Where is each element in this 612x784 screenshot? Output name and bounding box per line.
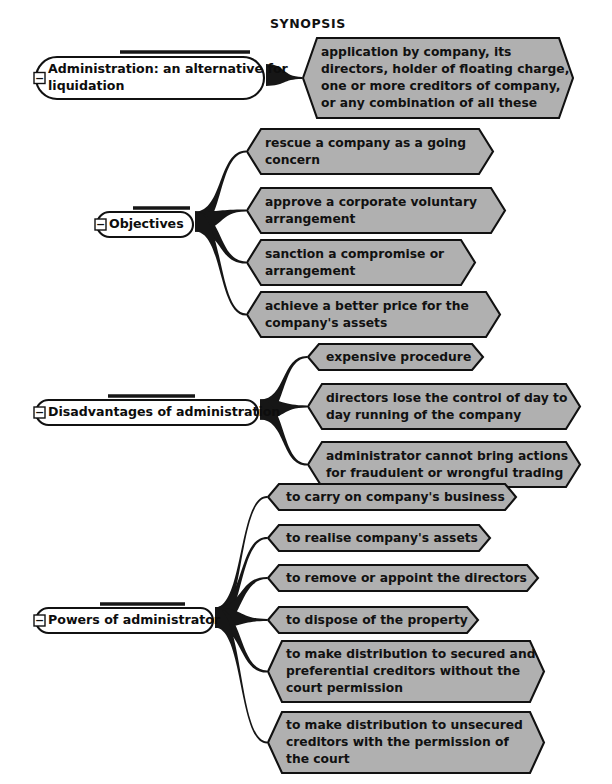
collapse-minus-icon: − [96,218,105,231]
leaf-node-label: to realise company's assets [286,531,478,545]
leaf-node-label: to dispose of the property [286,613,468,627]
parent-node-label: Disadvantages of administration [48,404,280,419]
parent-node-label: Powers of administrator [48,612,221,627]
svg-text:to dispose of the property: to dispose of the property [286,613,468,627]
svg-text:approve a corporate voluntary: approve a corporate voluntary [265,195,477,209]
mindmap-leaf-node[interactable]: to carry on company's business [268,484,516,510]
parent-node-label: Objectives [109,216,184,231]
mindmap-leaf-node[interactable]: to make distribution to secured andprefe… [268,641,544,702]
mindmap-leaf-node[interactable]: rescue a company as a goingconcern [247,129,493,174]
svg-text:to carry on company's business: to carry on company's business [286,490,505,504]
svg-text:to make distribution to secure: to make distribution to secured and [286,647,535,661]
svg-text:expensive procedure: expensive procedure [326,350,471,364]
svg-text:to realise company's assets: to realise company's assets [286,531,478,545]
mindmap-svg: −Administration: an alternative forliqui… [0,0,612,784]
svg-text:Disadvantages of administratio: Disadvantages of administration [48,404,280,419]
mindmap-leaf-node[interactable]: to realise company's assets [268,525,490,551]
leaf-node-label: to remove or appoint the directors [286,571,527,585]
mindmap-leaf-node[interactable]: sanction a compromise orarrangement [247,240,475,285]
leaf-node-label: expensive procedure [326,350,471,364]
svg-text:liquidation: liquidation [48,78,124,93]
svg-text:application by company, its: application by company, its [321,45,511,59]
mindmap-leaf-node[interactable]: administrator cannot bring actionsfor fr… [308,442,580,487]
mindmap-parent-node-objectives[interactable]: −Objectives [95,208,193,237]
svg-text:rescue a company as a going: rescue a company as a going [265,136,466,150]
branch-connectors-objectives [195,150,246,315]
branch-connectors-powers [215,496,267,744]
mindmap-leaf-node[interactable]: application by company, itsdirectors, ho… [303,38,573,118]
svg-text:or any combination of all thes: or any combination of all these [321,96,537,110]
svg-text:for fraudulent or wrongful tra: for fraudulent or wrongful trading [326,466,563,480]
page-title: SYNOPSIS [270,16,346,31]
mindmap-leaf-node[interactable]: approve a corporate voluntaryarrangement [247,188,505,233]
svg-text:Administration: an alternative: Administration: an alternative for [48,61,289,76]
svg-text:directors, holder of floating: directors, holder of floating charge, [321,62,569,76]
svg-text:court permission: court permission [286,681,403,695]
svg-text:arrangement: arrangement [265,264,356,278]
collapse-minus-icon: − [35,72,44,85]
svg-text:to make distribution to unsecu: to make distribution to unsecured [286,718,523,732]
svg-text:company's assets: company's assets [265,316,387,330]
mindmap-leaf-node[interactable]: expensive procedure [308,344,483,370]
svg-text:the court: the court [286,752,350,766]
svg-text:one or more creditors of compa: one or more creditors of company, [321,79,560,93]
mindmap-leaf-node[interactable]: to dispose of the property [268,607,478,633]
mindmap-leaf-node[interactable]: achieve a better price for thecompany's … [247,292,500,337]
svg-text:creditors with the permission: creditors with the permission of [286,735,509,749]
collapse-minus-icon: − [35,614,44,627]
mindmap-leaf-node[interactable]: directors lose the control of day today … [308,384,580,429]
mindmap-leaf-node[interactable]: to remove or appoint the directors [268,565,538,591]
svg-text:to remove or appoint the direc: to remove or appoint the directors [286,571,527,585]
svg-text:day running of the company: day running of the company [326,408,521,422]
svg-text:administrator cannot bring act: administrator cannot bring actions [326,449,568,463]
mindmap-leaf-node[interactable]: to make distribution to unsecuredcredito… [268,712,544,773]
collapse-minus-icon: − [35,406,44,419]
mindmap-parent-node-powers[interactable]: −Powers of administrator [34,604,221,633]
svg-text:directors lose the control of: directors lose the control of day to [326,391,567,405]
svg-text:preferential creditors without: preferential creditors without the [286,664,520,678]
svg-text:Powers of administrator: Powers of administrator [48,612,221,627]
svg-text:Objectives: Objectives [109,216,184,231]
svg-text:concern: concern [265,153,320,167]
leaf-node-label: to carry on company's business [286,490,505,504]
mindmap-parent-node-administration[interactable]: −Administration: an alternative forliqui… [34,52,289,99]
mindmap-canvas: SYNOPSIS −Administration: an alternative… [0,0,612,784]
svg-text:sanction a compromise or: sanction a compromise or [265,247,445,261]
svg-text:arrangement: arrangement [265,212,356,226]
mindmap-parent-node-disadvantages[interactable]: −Disadvantages of administration [34,396,280,425]
svg-text:achieve a better price for the: achieve a better price for the [265,299,469,313]
